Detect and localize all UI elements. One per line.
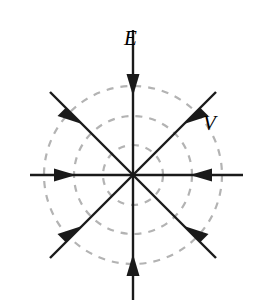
potential-label-V: V	[203, 113, 216, 134]
arrowhead-down-icon	[127, 254, 140, 276]
arrowhead-left-icon	[54, 169, 76, 182]
field-line-down-left	[50, 175, 133, 258]
figure-canvas: E V	[0, 0, 267, 307]
field-lines-group	[30, 30, 243, 300]
field-label-E: E	[124, 28, 137, 49]
field-line-down-right	[133, 175, 216, 258]
arrowhead-right-icon	[190, 169, 212, 182]
arrowhead-up-icon	[127, 74, 140, 96]
field-line-up-left	[50, 92, 133, 175]
